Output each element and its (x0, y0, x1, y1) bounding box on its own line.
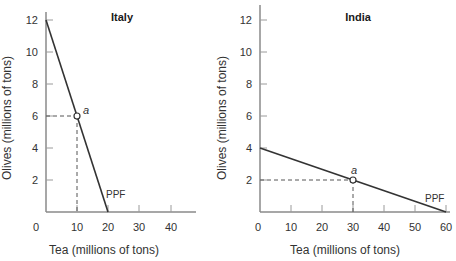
india-y-ticks (260, 20, 267, 180)
italy-y-tick-label: 10 (26, 46, 38, 58)
india-y-tick-label: 8 (246, 78, 252, 90)
india-x-axis-title: Tea (millions of tons) (290, 243, 400, 257)
italy-x-tick-label: 30 (133, 221, 145, 233)
italy-y-tick-label: 6 (32, 110, 38, 122)
italy-x-tick-label: 20 (102, 221, 114, 233)
italy-x-tick-label: 10 (71, 221, 83, 233)
italy-y-tick-label: 8 (32, 78, 38, 90)
india-x-tick-label: 60 (440, 221, 452, 233)
italy-x-tick-label: 0 (33, 221, 39, 233)
india-x-tick-label: 20 (316, 221, 328, 233)
italy-point-a-label: a (83, 104, 89, 116)
italy-point-a-marker (74, 113, 80, 119)
ppf-figure: 2 4 6 8 10 12 0 10 20 30 40 Tea (million… (0, 0, 456, 261)
italy-y-tick-label: 4 (32, 142, 38, 154)
india-y-tick-label: 6 (246, 110, 252, 122)
italy-y-tick-label: 12 (26, 14, 38, 26)
india-x-tick-label: 50 (409, 221, 421, 233)
india-y-tick-label: 2 (246, 174, 252, 186)
italy-y-tick-label: 2 (32, 174, 38, 186)
india-point-a-label: a (351, 164, 357, 176)
italy-y-ticks (46, 20, 53, 180)
india-point-a-marker (350, 177, 356, 183)
india-x-ticks (291, 205, 446, 212)
italy-x-axis-title: Tea (millions of tons) (49, 243, 159, 257)
india-y-tick-label: 4 (246, 142, 252, 154)
india-y-tick-label: 10 (240, 46, 252, 58)
india-x-tick-label: 40 (378, 221, 390, 233)
italy-y-axis-title: Olives (millions of tons) (0, 56, 14, 180)
italy-chart-title: Italy (111, 11, 134, 23)
india-x-tick-label: 30 (347, 221, 359, 233)
india-x-tick-label: 0 (255, 221, 261, 233)
italy-ppf-label: PPF (106, 189, 125, 200)
italy-chart: 2 4 6 8 10 12 0 10 20 30 40 Tea (million… (0, 11, 196, 257)
india-ppf-label: PPF (425, 193, 444, 204)
italy-x-ticks (77, 205, 171, 212)
india-y-tick-label: 12 (240, 14, 252, 26)
india-y-axis-title: Olives (millions of tons) (215, 56, 229, 180)
italy-x-tick-label: 40 (165, 221, 177, 233)
india-chart-title: India (345, 11, 372, 23)
india-chart: 2 4 6 8 10 12 0 10 20 30 40 50 60 Tea (m… (215, 5, 452, 257)
india-x-tick-label: 10 (285, 221, 297, 233)
